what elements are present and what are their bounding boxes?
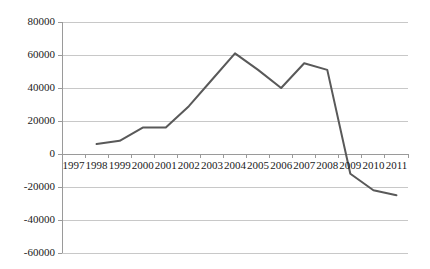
x-axis-tick-label: 2011: [380, 160, 412, 171]
y-axis-tick-label: 0: [50, 148, 56, 159]
y-axis-tick-label: -60000: [24, 247, 55, 258]
y-axis-tick-label: -20000: [24, 181, 55, 192]
x-axis-ticks: [62, 154, 408, 158]
line-chart: 800006000040000200000-20000-40000-60000 …: [0, 0, 430, 269]
chart-canvas: [0, 0, 430, 269]
data-series: [97, 53, 397, 195]
series-line: [97, 53, 397, 195]
y-axis-line: [62, 22, 408, 253]
y-axis-tick-label: 20000: [28, 115, 56, 126]
y-axis-tick-label: 40000: [28, 82, 56, 93]
y-axis-tick-label: -40000: [24, 214, 55, 225]
y-axis-tick-label: 80000: [28, 16, 56, 27]
y-axis-tick-label: 60000: [28, 49, 56, 60]
